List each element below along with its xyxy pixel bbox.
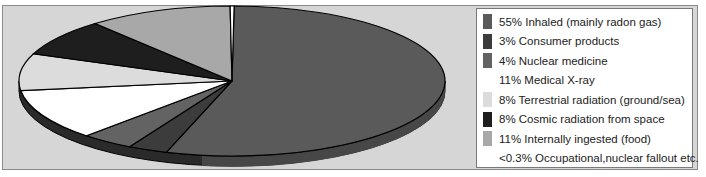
legend-item: 8% Terrestrial radiation (ground/sea)	[483, 90, 692, 110]
pie-slices	[19, 6, 445, 156]
legend-label: 4% Nuclear medicine	[499, 55, 608, 67]
legend-swatch	[483, 151, 492, 166]
legend-item: 55% Inhaled (mainly radon gas)	[483, 12, 692, 32]
legend-item: 4% Nuclear medicine	[483, 51, 692, 71]
legend-item: 3% Consumer products	[483, 32, 692, 52]
legend-label: 8% Cosmic radiation from space	[499, 113, 665, 125]
legend-swatch	[483, 92, 492, 107]
legend: 55% Inhaled (mainly radon gas) 3% Consum…	[476, 8, 693, 168]
legend-swatch	[483, 34, 492, 49]
legend-swatch	[483, 131, 492, 146]
legend-label: <0.3% Occupational,nuclear fallout etc.	[499, 152, 699, 164]
legend-swatch	[483, 112, 492, 127]
legend-label: 55% Inhaled (mainly radon gas)	[499, 16, 661, 28]
pie-chart	[0, 0, 476, 177]
legend-label: 11% Internally ingested (food)	[499, 133, 651, 145]
legend-item: 8% Cosmic radiation from space	[483, 110, 692, 130]
legend-item: 11% Medical X-ray	[483, 71, 692, 91]
legend-label: 11% Medical X-ray	[499, 74, 595, 86]
legend-item: 11% Internally ingested (food)	[483, 129, 692, 149]
legend-item: <0.3% Occupational,nuclear fallout etc.	[483, 149, 692, 169]
legend-label: 8% Terrestrial radiation (ground/sea)	[499, 94, 685, 106]
legend-swatch	[483, 73, 492, 88]
legend-swatch	[483, 14, 492, 29]
legend-label: 3% Consumer products	[499, 35, 619, 47]
legend-swatch	[483, 53, 492, 68]
